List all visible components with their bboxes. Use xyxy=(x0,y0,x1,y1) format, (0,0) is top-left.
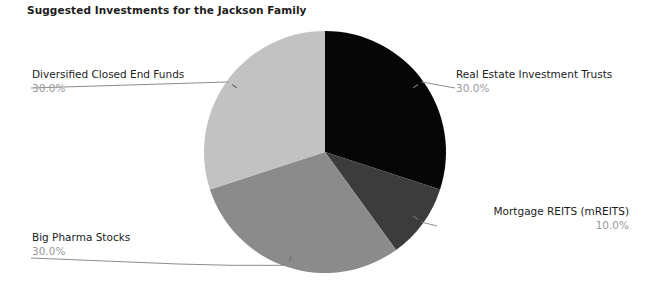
callout-value: 30.0% xyxy=(456,81,612,96)
callout-mortgage-reits: Mortgage REITS (mREITS) 10.0% xyxy=(404,205,629,233)
callout-real-estate-investment-trusts: Real Estate Investment Trusts 30.0% xyxy=(456,68,612,96)
callout-label: Real Estate Investment Trusts xyxy=(456,68,612,81)
callout-value: 30.0% xyxy=(32,244,130,259)
pie-chart: Suggested Investments for the Jackson Fa… xyxy=(0,0,656,296)
pie-slices xyxy=(204,31,446,273)
callout-value: 10.0% xyxy=(404,218,629,233)
callout-label: Diversified Closed End Funds xyxy=(32,68,184,81)
callout-value: 30.0% xyxy=(32,81,184,96)
callout-big-pharma-stocks: Big Pharma Stocks 30.0% xyxy=(32,231,130,259)
callout-label: Mortgage REITS (mREITS) xyxy=(404,205,629,218)
callout-diversified-closed-end-funds: Diversified Closed End Funds 30.0% xyxy=(32,68,184,96)
callout-label: Big Pharma Stocks xyxy=(32,231,130,244)
leader-line xyxy=(31,258,288,266)
